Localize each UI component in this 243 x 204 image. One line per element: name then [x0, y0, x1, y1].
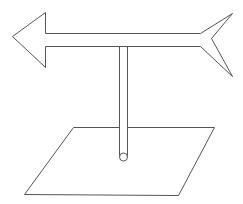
- pole-end-circle: [120, 153, 128, 161]
- weathervane-diagram: Line drawing of a weather vane: a horizo…: [0, 0, 243, 204]
- pole: [120, 46, 128, 161]
